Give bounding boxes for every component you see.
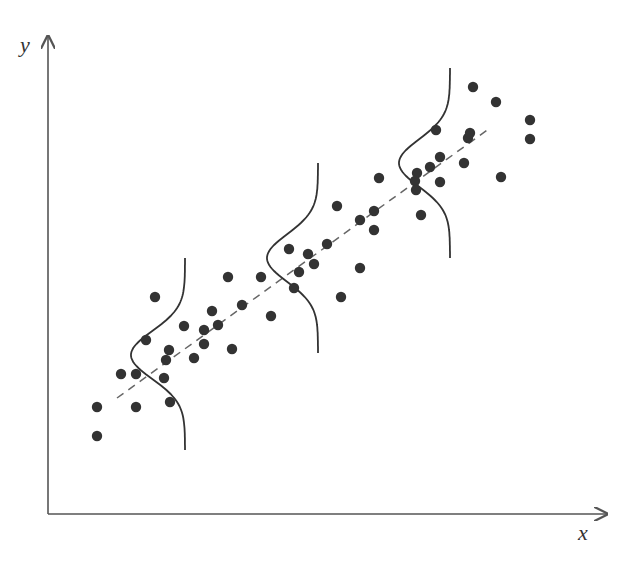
data-point: [179, 321, 189, 331]
data-point: [468, 82, 478, 92]
data-point: [256, 272, 266, 282]
data-point: [411, 185, 421, 195]
data-point: [213, 320, 223, 330]
data-point: [410, 176, 420, 186]
data-point: [525, 134, 535, 144]
data-point: [332, 201, 342, 211]
data-point: [131, 369, 141, 379]
data-point: [309, 259, 319, 269]
data-point: [141, 335, 151, 345]
axes: [48, 36, 607, 514]
data-point: [150, 292, 160, 302]
data-point: [223, 272, 233, 282]
data-point: [491, 97, 501, 107]
scatter-plot: [0, 0, 622, 563]
data-point: [459, 158, 469, 168]
data-point: [369, 206, 379, 216]
data-point: [131, 402, 141, 412]
data-point: [189, 353, 199, 363]
data-point: [266, 311, 276, 321]
data-point: [207, 306, 217, 316]
data-point: [465, 128, 475, 138]
data-point: [294, 267, 304, 277]
data-point: [116, 369, 126, 379]
data-point: [431, 125, 441, 135]
data-point: [227, 344, 237, 354]
data-point: [165, 397, 175, 407]
data-point: [336, 292, 346, 302]
data-point: [374, 173, 384, 183]
data-point: [92, 431, 102, 441]
data-point: [355, 263, 365, 273]
data-point: [322, 239, 332, 249]
data-point: [284, 244, 294, 254]
data-point: [303, 249, 313, 259]
data-point: [237, 300, 247, 310]
data-point: [425, 162, 435, 172]
y-axis-label: y: [20, 32, 30, 58]
data-point: [159, 373, 169, 383]
data-points: [92, 82, 535, 441]
data-point: [199, 339, 209, 349]
data-point: [369, 225, 379, 235]
x-axis-label: x: [578, 520, 588, 546]
data-point: [435, 177, 445, 187]
data-point: [199, 325, 209, 335]
gaussian-curve-3: [399, 68, 450, 258]
data-point: [355, 215, 365, 225]
data-point: [164, 345, 174, 355]
data-point: [289, 283, 299, 293]
data-point: [92, 402, 102, 412]
data-point: [525, 115, 535, 125]
data-point: [416, 210, 426, 220]
gaussian-curves: [131, 68, 450, 450]
data-point: [435, 152, 445, 162]
data-point: [161, 355, 171, 365]
data-point: [496, 172, 506, 182]
